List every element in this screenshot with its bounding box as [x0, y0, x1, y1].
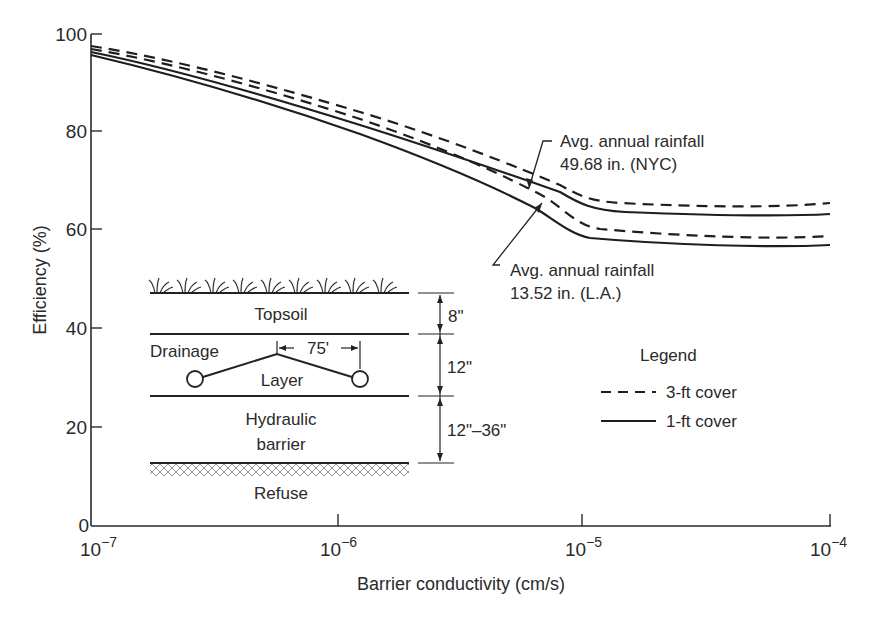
svg-text:Avg. annual rainfall: Avg. annual rainfall	[560, 132, 704, 151]
x-axis-title: Barrier conductivity (cm/s)	[357, 574, 565, 594]
layer-hydraulic: Hydraulic	[246, 410, 317, 429]
legend-item-3ft: 3-ft cover	[666, 383, 737, 402]
spacing-dimension: 75'	[277, 339, 360, 369]
y-tick-40: 40	[66, 318, 87, 339]
x-tick-1e-7: 10−7	[80, 534, 117, 560]
y-tick-60: 60	[66, 219, 87, 240]
curve-la-3ft	[91, 49, 830, 238]
y-tick-100: 100	[55, 24, 87, 45]
x-tick-1e-6: 10−6	[320, 534, 357, 560]
layer-barrier: barrier	[256, 435, 305, 454]
layer-topsoil: Topsoil	[255, 305, 308, 324]
cover-cross-section-diagram: Topsoil Drainage Layer Hydraulic barrier…	[149, 278, 506, 503]
svg-text:Avg. annual rainfall: Avg. annual rainfall	[510, 261, 654, 280]
y-tick-20: 20	[66, 417, 87, 438]
y-tick-80: 80	[66, 121, 87, 142]
y-axis: 100 80 60 40 20 0 Efficiency (%)	[30, 24, 102, 536]
layer-drainage: Drainage	[150, 342, 219, 361]
legend-title: Legend	[640, 346, 697, 365]
efficiency-chart: 100 80 60 40 20 0 Efficiency (%) 10−7 10…	[0, 0, 876, 618]
layer-layer: Layer	[261, 371, 304, 390]
svg-text:75': 75'	[307, 339, 329, 358]
x-tick-1e-4: 10−4	[810, 534, 847, 560]
curve-nyc-3ft	[91, 46, 830, 206]
x-axis: 10−7 10−6 10−5 10−4 Barrier conductivity…	[80, 514, 847, 594]
curves	[91, 46, 830, 246]
svg-text:49.68 in. (NYC): 49.68 in. (NYC)	[560, 155, 677, 174]
y-tick-0: 0	[78, 515, 89, 536]
svg-text:13.52 in. (L.A.): 13.52 in. (L.A.)	[510, 284, 622, 303]
thickness-topsoil: 8"	[448, 307, 464, 326]
curve-la-1ft	[91, 55, 830, 246]
layer-refuse: Refuse	[254, 484, 308, 503]
refuse-hatch	[150, 464, 409, 476]
legend: Legend 3-ft cover 1-ft cover	[601, 346, 737, 431]
grass-icon	[149, 278, 397, 293]
y-axis-title: Efficiency (%)	[30, 225, 50, 335]
thickness-barrier: 12"–36"	[447, 421, 506, 440]
annotation-nyc: Avg. annual rainfall 49.68 in. (NYC)	[526, 132, 704, 188]
curve-nyc-1ft	[91, 52, 830, 215]
legend-item-1ft: 1-ft cover	[666, 412, 737, 431]
x-tick-1e-5: 10−5	[565, 534, 602, 560]
thickness-drainage: 12"	[447, 358, 472, 377]
